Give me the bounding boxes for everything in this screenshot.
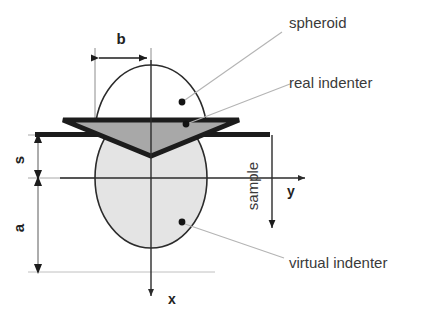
real-indenter-leader-line (189, 84, 290, 123)
sample-annotation: sample (244, 135, 272, 228)
indentation-diagram: b s a sample x y (0, 0, 426, 321)
virtual-indenter-label: virtual indenter (289, 254, 387, 271)
real-indenter-label: real indenter (289, 74, 372, 91)
s-dimension-label: s (10, 156, 27, 164)
virtual-indenter-leader-line (185, 224, 284, 258)
spheroid-dot (179, 99, 186, 106)
spheroid-label: spheroid (289, 14, 347, 31)
diagram-canvas: b s a sample x y (0, 0, 426, 321)
x-axis-label: x (168, 291, 176, 307)
virtual-indenter-dot (179, 219, 186, 226)
sample-label: sample (244, 162, 261, 210)
y-axis-label: y (287, 183, 295, 199)
dimension-b: b (99, 30, 147, 58)
spheroid-leader-line (185, 32, 282, 100)
b-dimension-label: b (116, 30, 125, 47)
real-indenter-dot (183, 121, 190, 128)
a-dimension-label: a (10, 223, 27, 232)
dimension-s-a: s a (10, 133, 42, 274)
